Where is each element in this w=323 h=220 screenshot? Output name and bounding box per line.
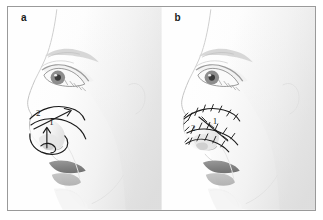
incision-line-mid-a	[31, 119, 86, 139]
figure-root: 1 2 a	[0, 0, 323, 220]
figure-frame: 1 2 a	[7, 6, 316, 211]
marking-label-2-a: 2	[36, 108, 40, 118]
panel-label-a: a	[21, 13, 27, 23]
incision-arc-nostril-a	[41, 143, 56, 153]
suture-label-2-b: 2	[190, 123, 194, 133]
suture-markings-b: 1 2	[162, 7, 316, 210]
panel-label-b: b	[175, 13, 181, 23]
suture-line-nostril-b	[185, 139, 228, 152]
suture-label-1-b: 1	[212, 116, 216, 126]
panel-b: 1 2 b	[162, 7, 316, 210]
surgical-markings-a: 1 2	[8, 7, 162, 210]
incision-loop-tip-a	[30, 134, 68, 154]
marking-label-1-a: 1	[49, 117, 53, 127]
panel-a: 1 2 a	[8, 7, 162, 210]
